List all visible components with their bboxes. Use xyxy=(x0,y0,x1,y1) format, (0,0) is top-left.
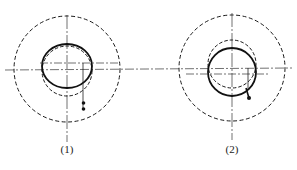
fig2-weight-dot xyxy=(247,96,251,100)
fig1-weight-dot-lower xyxy=(82,107,86,111)
shared-horizontal-centerline xyxy=(5,68,292,70)
fig1-label: (1) xyxy=(61,143,74,156)
figure-2: (2) xyxy=(179,13,285,156)
fig1-weight-dot-upper xyxy=(82,101,86,105)
figure-1: (1) xyxy=(14,15,120,156)
diagram-canvas: (1) (2) xyxy=(0,0,297,170)
fig2-label: (2) xyxy=(226,143,239,156)
